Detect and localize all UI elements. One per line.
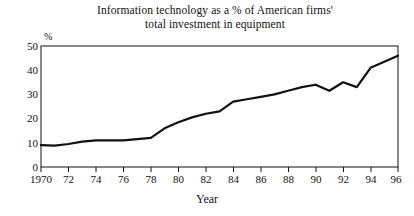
chart-figure: Information technology as a % of America… (0, 0, 414, 216)
x-axis-ticks (41, 167, 398, 172)
x-axis-title: Year (0, 192, 414, 207)
plot-area (0, 0, 414, 216)
plot-frame (41, 46, 398, 167)
